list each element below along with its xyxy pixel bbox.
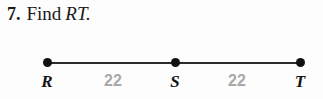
point-label-t: T	[289, 72, 311, 92]
point-dot-r	[43, 58, 52, 67]
point-label-s: S	[164, 72, 186, 92]
line-segment-diagram: R S T 22 22	[0, 46, 323, 99]
measure-label-rs: 22	[96, 72, 130, 90]
point-label-r: R	[36, 72, 58, 92]
worksheet-page: 7.FindRT. R S T 22 22	[0, 0, 323, 99]
problem-prompt: Find	[27, 3, 62, 24]
point-dot-s	[171, 58, 180, 67]
measure-label-st: 22	[220, 72, 254, 90]
problem-number: 7.	[7, 4, 21, 24]
problem-statement: 7.FindRT.	[7, 2, 91, 26]
problem-segment-name: RT.	[65, 3, 91, 24]
point-dot-t	[296, 58, 305, 67]
